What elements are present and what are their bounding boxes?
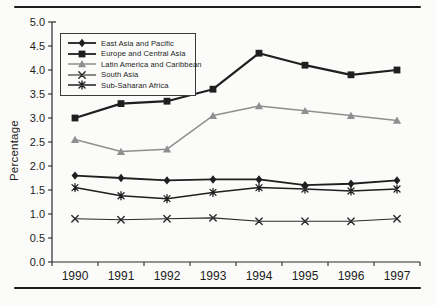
- diamond-marker: [72, 171, 79, 179]
- x-tick-label: 1996: [338, 269, 365, 283]
- diamond-marker: [164, 176, 171, 184]
- y-tick-label: 4.0: [30, 64, 45, 76]
- x-legend-icon: [67, 70, 97, 80]
- legend-item: Europe and Central Asia: [67, 49, 192, 60]
- y-tick-label: 2.5: [30, 136, 45, 148]
- diamond-marker: [118, 174, 125, 182]
- legend-item: East Asia and Pacific: [67, 38, 192, 49]
- y-tick-label: 2.0: [30, 160, 45, 172]
- series-line: [75, 106, 397, 152]
- legend-item-label: East Asia and Pacific: [101, 39, 174, 48]
- y-tick-label: 3.5: [30, 88, 45, 100]
- x-tick-label: 1993: [200, 269, 227, 283]
- square-marker: [302, 62, 309, 69]
- y-tick-label: 0.0: [30, 256, 45, 268]
- square-marker: [79, 50, 86, 57]
- series-x: [72, 215, 400, 225]
- legend: East Asia and PacificEurope and Central …: [60, 33, 196, 96]
- square-legend-icon: [67, 49, 97, 59]
- x-tick-label: 1991: [108, 269, 135, 283]
- diamond-marker: [256, 175, 263, 183]
- square-marker: [394, 67, 401, 74]
- legend-item-label: Europe and Central Asia: [101, 49, 186, 58]
- legend-item: South Asia: [67, 70, 192, 81]
- y-tick-label: 3.0: [30, 112, 45, 124]
- legend-item-label: Sub-Saharan Africa: [101, 81, 169, 90]
- x-tick-label: 1990: [62, 269, 89, 283]
- diamond-marker: [394, 176, 401, 184]
- legend-item-label: South Asia: [101, 70, 138, 79]
- y-tick-label: 1.5: [30, 184, 45, 196]
- figure: 0.00.51.01.52.02.53.03.54.04.55.01990199…: [0, 0, 436, 305]
- series-asterisk: [72, 184, 400, 203]
- y-axis-title: Percentage: [8, 95, 24, 207]
- diamond-marker: [79, 39, 86, 47]
- square-marker: [118, 100, 125, 107]
- square-marker: [164, 98, 171, 105]
- triangle-marker: [71, 136, 79, 143]
- diamond-marker: [210, 175, 217, 183]
- square-marker: [210, 86, 217, 93]
- square-marker: [348, 71, 355, 78]
- diamond-legend-icon: [67, 38, 97, 48]
- square-marker: [72, 115, 79, 122]
- x-tick-label: 1995: [292, 269, 319, 283]
- y-tick-label: 4.5: [30, 40, 45, 52]
- y-tick-label: 5.0: [30, 16, 45, 28]
- series-triangle: [71, 102, 401, 155]
- triangle-legend-icon: [67, 59, 97, 69]
- y-tick-label: 1.0: [30, 208, 45, 220]
- x-tick-label: 1992: [154, 269, 181, 283]
- x-tick-label: 1994: [246, 269, 273, 283]
- legend-item: Sub-Saharan Africa: [67, 80, 192, 91]
- x-tick-label: 1997: [384, 269, 411, 283]
- y-tick-label: 0.5: [30, 232, 45, 244]
- asterisk-legend-icon: [67, 80, 97, 90]
- square-marker: [256, 50, 263, 57]
- legend-item: Latin America and Caribbean: [67, 59, 192, 70]
- legend-item-label: Latin America and Caribbean: [101, 60, 202, 69]
